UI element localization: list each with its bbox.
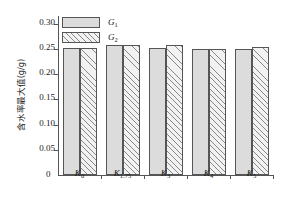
- bar-group: [235, 16, 269, 175]
- bar: [209, 49, 226, 175]
- legend-swatch-series-2: [62, 32, 100, 43]
- bar: [123, 45, 140, 175]
- bar: [252, 47, 269, 175]
- bar: [106, 45, 123, 175]
- y-axis-zero-label: 0: [46, 169, 51, 179]
- bar: [192, 49, 209, 175]
- y-axis-line: [58, 16, 59, 176]
- bar-group: [192, 16, 226, 175]
- bar: [80, 48, 97, 175]
- x-axis-tick-label: K3: [144, 168, 187, 178]
- y-axis-tick-label: 0.10: [39, 118, 55, 128]
- y-axis-tick-label: 0.05: [39, 143, 55, 153]
- x-axis-tick-label: K5: [230, 168, 273, 178]
- legend: G1 G2: [62, 17, 132, 47]
- x-axis-tick-mark: [273, 175, 274, 179]
- y-axis-title: 含水率最大值(g/g): [14, 10, 28, 180]
- legend-item-series-2: G2: [62, 32, 132, 45]
- legend-swatch-series-1: [62, 17, 100, 28]
- y-axis-tick-label: 0.30: [39, 17, 55, 27]
- legend-label-series-1: G1: [108, 17, 118, 28]
- y-axis-tick-label: 0.20: [39, 67, 55, 77]
- bar: [166, 45, 183, 175]
- y-axis-tick-label: 0.15: [39, 92, 55, 102]
- bar: [63, 48, 80, 175]
- bar-group: [149, 16, 183, 175]
- bar: [149, 48, 166, 175]
- x-axis-tick-label: K1.75: [101, 168, 144, 178]
- legend-label-series-2: G2: [108, 32, 118, 43]
- x-axis-tick-label: K4: [187, 168, 230, 178]
- legend-item-series-1: G1: [62, 17, 132, 30]
- bar-chart: 含水率最大值(g/g) 0 0.050.100.150.200.250.30 K…: [0, 0, 281, 211]
- bar: [235, 49, 252, 175]
- x-axis-tick-label: K0: [58, 168, 101, 178]
- y-axis-tick-label: 0.25: [39, 42, 55, 52]
